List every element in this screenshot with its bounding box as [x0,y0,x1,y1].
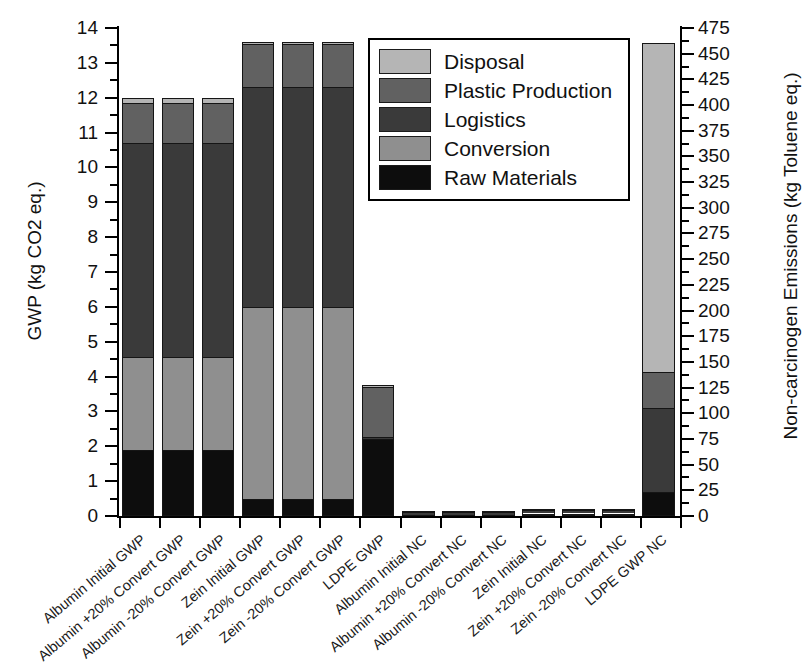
y-minor-tick-left [110,428,118,430]
y-tick-right [681,78,694,80]
x-tick [440,517,442,528]
legend-item-raw-materials[interactable]: Raw Materials [379,163,618,192]
bar-segment-conversion [282,307,315,499]
bar-segment-logistics [282,87,315,307]
bar-segment-conversion [322,307,355,499]
bar-segment-disposal [282,42,315,44]
bar-3[interactable] [242,42,275,516]
y-minor-tick-right [681,476,689,478]
y-minor-tick-left [110,184,118,186]
y-minor-tick-right [681,425,689,427]
y-tick-right [681,232,694,234]
y-tick-label-left: 9 [38,192,98,211]
y-tick-label-right: 125 [698,378,758,397]
y-minor-tick-right [681,143,689,145]
y-minor-tick-left [110,149,118,151]
legend-item-plastic-production[interactable]: Plastic Production [379,76,618,105]
y-tick-label-right: 0 [698,506,758,525]
bar-0[interactable] [122,98,155,516]
y-minor-tick-right [681,66,689,68]
y-tick-label-left: 1 [38,471,98,490]
y-tick-label-right: 250 [698,249,758,268]
bar-6[interactable] [362,385,395,516]
bar-segment-disposal [362,385,395,387]
bar-segment-plastic-production [202,103,235,143]
bar-12[interactable] [602,509,635,516]
y-tick-label-right: 25 [698,480,758,499]
x-tick [600,517,602,528]
y-tick-label-right: 325 [698,172,758,191]
x-tick [680,517,682,528]
x-tick [199,517,201,528]
bar-segment-raw-materials [122,450,155,516]
bar-7[interactable] [402,512,435,516]
y-tick-label-left: 14 [38,18,98,37]
bar-segment-disposal [242,42,275,44]
bar-4[interactable] [282,42,315,516]
y-tick-label-right: 100 [698,403,758,422]
bar-8[interactable] [442,512,475,516]
bar-10[interactable] [522,509,555,516]
y-tick-right [681,310,694,312]
y-tick-label-right: 475 [698,18,758,37]
y-minor-tick-right [681,91,689,93]
y-tick-label-right: 275 [698,223,758,242]
y-tick-label-left: 4 [38,367,98,386]
y-tick-right [681,464,694,466]
bar-segment-plastic-production [402,511,435,512]
bar-segment-disposal [202,98,235,103]
y-tick-right [681,130,694,132]
y-tick-left [105,132,118,134]
bar-1[interactable] [162,98,195,516]
y-tick-right [681,489,694,491]
bar-segment-disposal [122,98,155,103]
legend-swatch-icon [379,78,431,103]
bar-segment-conversion [202,357,235,449]
bar-segment-logistics [482,512,515,515]
bar-segment-raw-materials [362,439,395,516]
x-tick [400,517,402,528]
y-minor-tick-left [110,323,118,325]
y-minor-tick-right [681,322,689,324]
y-tick-right [681,284,694,286]
y-tick-label-left: 8 [38,227,98,246]
y-tick-label-right: 50 [698,455,758,474]
x-tick [640,517,642,528]
bar-segment-logistics [122,143,155,357]
bar-segment-logistics [522,510,555,513]
y-tick-left [105,201,118,203]
x-tick [119,517,121,528]
bar-segment-plastic-production [282,44,315,88]
y-tick-label-left: 7 [38,262,98,281]
y-minor-tick-right [681,194,689,196]
legend-item-conversion[interactable]: Conversion [379,134,618,163]
legend-swatch-icon [379,107,431,132]
y-minor-tick-right [681,399,689,401]
bar-segment-raw-materials [642,492,675,516]
legend-item-logistics[interactable]: Logistics [379,105,618,134]
bar-2[interactable] [202,98,235,516]
bar-11[interactable] [562,509,595,516]
bar-9[interactable] [482,512,515,516]
bar-5[interactable] [322,42,355,516]
y-tick-right [681,515,694,517]
y-tick-left [105,515,118,517]
y-minor-tick-right [681,245,689,247]
bar-segment-plastic-production [642,372,675,408]
y-tick-left [105,306,118,308]
y-tick-left [105,97,118,99]
x-tick [359,517,361,528]
y-minor-tick-left [110,114,118,116]
y-tick-left [105,445,118,447]
bar-13[interactable] [642,43,675,516]
legend-item-disposal[interactable]: Disposal [379,47,618,76]
y-minor-tick-right [681,374,689,376]
x-tick [279,517,281,528]
bar-segment-logistics [162,143,195,357]
y-minor-tick-left [110,219,118,221]
y-tick-right [681,412,694,414]
y-tick-right [681,387,694,389]
y-minor-tick-left [110,463,118,465]
y-tick-left [105,341,118,343]
bar-segment-logistics [322,87,355,307]
